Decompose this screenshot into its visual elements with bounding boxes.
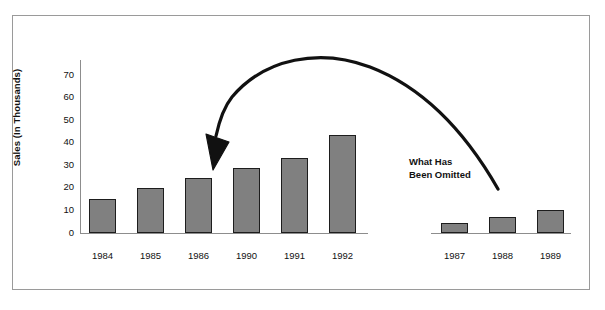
x-tick-1985: 1985 <box>130 250 171 261</box>
bar-1988 <box>489 217 516 233</box>
bar-1992 <box>329 135 356 233</box>
y-tick-60: 60 <box>48 92 74 102</box>
y-tick-0: 0 <box>48 228 74 238</box>
x-tick-1984: 1984 <box>82 250 123 261</box>
y-tick-30: 30 <box>48 160 74 170</box>
bar-1987 <box>441 223 468 233</box>
bar-1989 <box>537 210 564 233</box>
x-axis-line-right <box>431 233 571 234</box>
x-tick-1992: 1992 <box>322 250 363 261</box>
omitted-callout-line2: Been Omitted <box>409 169 471 182</box>
bar-1985 <box>137 188 164 233</box>
y-axis-label: Sales (In Thousands) <box>11 58 22 178</box>
y-tick-40: 40 <box>48 137 74 147</box>
chart-frame <box>12 15 590 290</box>
y-tick-20: 20 <box>48 182 74 192</box>
bar-1986 <box>185 178 212 233</box>
y-tick-10: 10 <box>48 205 74 215</box>
x-tick-1989: 1989 <box>530 250 571 261</box>
y-tick-70: 70 <box>48 70 74 80</box>
y-tick-50: 50 <box>48 115 74 125</box>
bar-1991 <box>281 158 308 233</box>
chart-figure: Sales (In Thousands) 70 60 50 40 30 20 1… <box>0 0 605 310</box>
bar-1984 <box>89 199 116 233</box>
omitted-callout-text: What Has Been Omitted <box>409 156 471 181</box>
x-tick-1986: 1986 <box>178 250 219 261</box>
x-tick-1988: 1988 <box>482 250 523 261</box>
x-tick-1990: 1990 <box>226 250 267 261</box>
x-tick-1991: 1991 <box>274 250 315 261</box>
x-tick-1987: 1987 <box>434 250 475 261</box>
x-axis-line-left <box>80 233 368 234</box>
y-axis-line <box>80 60 81 234</box>
omitted-callout-line1: What Has <box>409 156 471 169</box>
bar-1990 <box>233 168 260 233</box>
